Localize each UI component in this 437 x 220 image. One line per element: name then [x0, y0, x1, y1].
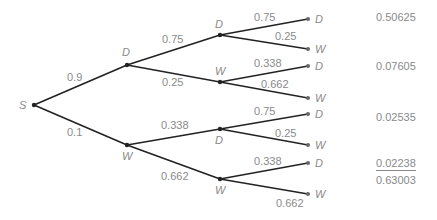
branch-probability: 0.662 — [276, 197, 304, 209]
branch-probability: 0.338 — [254, 155, 282, 167]
leaf-label: W — [315, 139, 325, 151]
leaf-label: D — [315, 13, 323, 25]
leaf-label: D — [315, 108, 323, 120]
branch-probability: 0.338 — [254, 57, 282, 69]
node-label: W — [215, 65, 225, 77]
branch-probability: 0.25 — [275, 127, 296, 139]
leaf-label: W — [315, 43, 325, 55]
path-probability: 0.02238 — [376, 157, 416, 171]
branch-probability: 0.662 — [261, 78, 289, 90]
branch-probability: 0.1 — [67, 126, 82, 138]
leaf-label: D — [315, 157, 323, 169]
path-probability: 0.07605 — [376, 60, 416, 72]
branch-probability: 0.338 — [161, 119, 189, 131]
leaf-label: W — [315, 92, 325, 104]
branch-probability: 0.9 — [67, 71, 82, 83]
node-label: W — [215, 184, 225, 196]
branch-probability: 0.75 — [254, 105, 275, 117]
branch-probability: 0.25 — [162, 76, 183, 88]
node-label: D — [215, 18, 223, 30]
node-label: D — [122, 46, 130, 58]
branch-probability: 0.75 — [162, 33, 183, 45]
leaf-label: D — [315, 60, 323, 72]
path-probability: 0.50625 — [376, 11, 416, 23]
branch-probability: 0.25 — [275, 30, 296, 42]
total-probability: 0.63003 — [376, 174, 416, 186]
root-node-label: S — [19, 99, 26, 111]
leaf-label: W — [315, 188, 325, 200]
node-label: D — [215, 134, 223, 146]
node-label: W — [122, 150, 132, 162]
branch-probability: 0.75 — [254, 11, 275, 23]
branch-probability: 0.662 — [161, 170, 189, 182]
path-probability: 0.02535 — [376, 111, 416, 123]
